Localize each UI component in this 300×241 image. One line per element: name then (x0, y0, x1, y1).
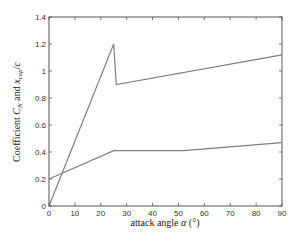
series-line-c-n (49, 44, 282, 206)
y-tick-label: 0.4 (35, 148, 47, 157)
x-tick-label: 80 (252, 209, 261, 218)
y-tick-label: 0.6 (35, 121, 47, 130)
y-tick-label: 1 (42, 67, 47, 76)
y-axis-label: Coefficient CN and xcop/c (11, 62, 24, 162)
series-line-x-cop-c (49, 143, 282, 179)
y-tick-label: 0.2 (35, 175, 47, 184)
x-tick-label: 20 (96, 209, 105, 218)
x-tick-label: 70 (226, 209, 235, 218)
y-tick-label: 0 (42, 202, 47, 211)
axes-frame (49, 17, 282, 206)
y-tick-label: 0.8 (35, 94, 47, 103)
x-tick-label: 0 (47, 209, 52, 218)
series-layer (49, 44, 282, 206)
plot-area (49, 17, 282, 206)
ticks-layer: 010203040506070809000.20.40.60.811.21.4 (35, 13, 287, 218)
x-tick-label: 10 (70, 209, 79, 218)
y-tick-label: 1.2 (35, 40, 47, 49)
x-axis-label: attack angle α (°) (131, 217, 200, 229)
chart: 010203040506070809000.20.40.60.811.21.4 … (0, 0, 300, 241)
y-tick-label: 1.4 (35, 13, 47, 22)
x-tick-label: 90 (278, 209, 287, 218)
x-tick-label: 60 (200, 209, 209, 218)
